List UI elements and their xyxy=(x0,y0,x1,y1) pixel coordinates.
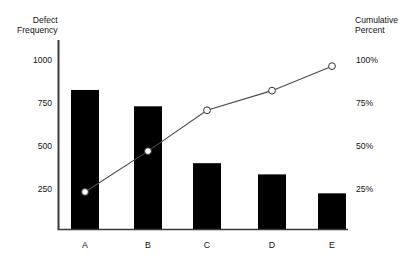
bar-a xyxy=(71,90,99,230)
bar-e xyxy=(318,193,346,229)
pareto-chart: ro Defect Frequency Cumulative Percent 1… xyxy=(0,0,409,264)
plot-area xyxy=(0,0,409,264)
cumulative-marker-a xyxy=(82,189,89,196)
cumulative-marker-c xyxy=(204,107,211,114)
cumulative-marker-d xyxy=(269,87,276,94)
cumulative-marker-e xyxy=(329,63,336,70)
bar-c xyxy=(193,163,221,229)
cumulative-marker-b xyxy=(145,148,152,155)
bar-d xyxy=(258,174,286,229)
bar-b xyxy=(134,106,162,229)
